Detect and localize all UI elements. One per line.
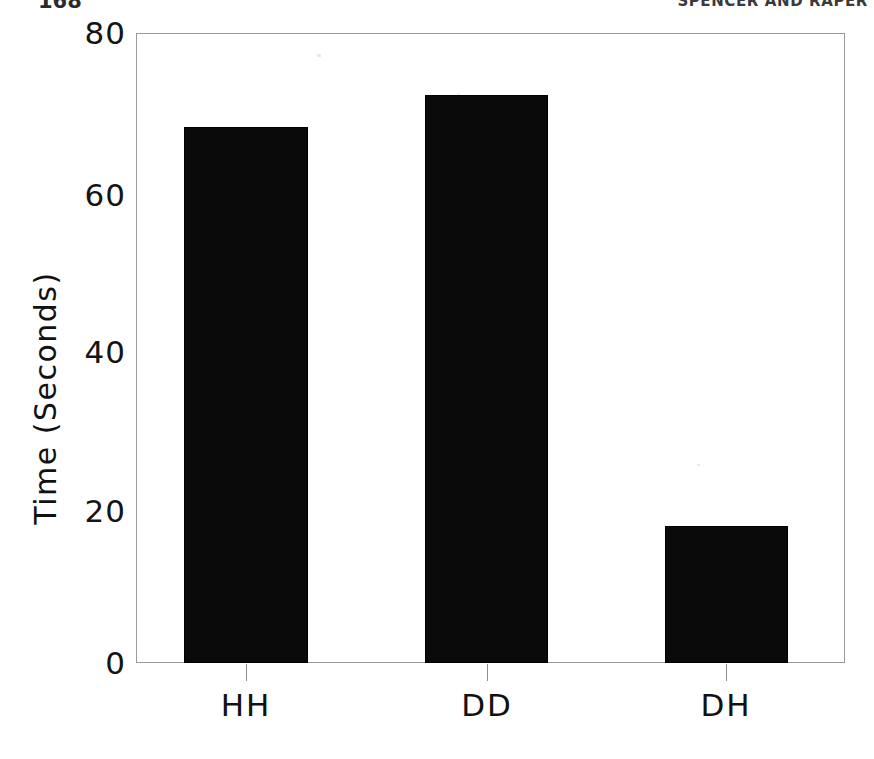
scan-speckle [697, 464, 700, 466]
y-tick-label-20: 20 [0, 496, 126, 527]
y-tick-label-60: 60 [0, 180, 126, 211]
y-tick-label-0: 0 [0, 648, 126, 679]
bar-chart-figure: Time (Seconds) 80 60 40 20 0 HH DD DH [0, 0, 874, 759]
x-tick-label-dd: DD [407, 690, 567, 721]
bar-dh [665, 526, 788, 663]
bar-dd [425, 95, 548, 663]
y-tick-label-80: 80 [0, 18, 126, 49]
x-tick-mark-hh [246, 664, 247, 681]
x-tick-mark-dh [726, 664, 727, 681]
x-tick-label-hh: HH [166, 690, 326, 721]
x-tick-mark-dd [487, 664, 488, 681]
scan-speckle [317, 54, 321, 57]
x-tick-label-dh: DH [646, 690, 806, 721]
y-tick-label-40: 40 [0, 337, 126, 368]
bar-hh [184, 127, 308, 663]
